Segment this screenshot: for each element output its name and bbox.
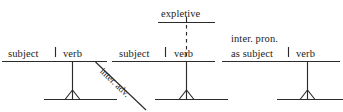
d3-triangle-right-leg <box>308 90 316 100</box>
d1-triangle-right-leg <box>73 90 81 100</box>
d3-verb-label: verb <box>296 48 315 59</box>
d2-subject-label: subject <box>119 48 149 59</box>
d1-triangle-left-leg <box>65 90 73 100</box>
d2-triangle-left-leg <box>179 90 187 100</box>
d3-inter-pron-label: inter. pron. <box>231 33 278 44</box>
d1-verb-label: verb <box>63 48 82 59</box>
d2-triangle-right-leg <box>187 90 195 100</box>
d2-verb-label: verb <box>174 48 193 59</box>
d3-triangle-left-leg <box>300 90 308 100</box>
d3-as-subject-label: as subject <box>231 48 273 59</box>
sentence-diagram-figure: subject verb inter. adv. expletive subje… <box>0 0 343 112</box>
d2-expletive-label: expletive <box>161 8 200 19</box>
d1-subject-label: subject <box>8 48 38 59</box>
